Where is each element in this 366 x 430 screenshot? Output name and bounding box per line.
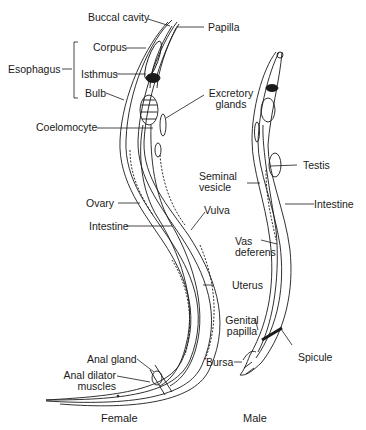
male-isthmus-ring [266,85,278,92]
label-esophagus: Esophagus [8,64,61,75]
label-anal-gland: Anal gland [87,354,137,365]
label-ovary: Ovary [86,198,114,209]
female-intestine [141,125,200,386]
label-papilla: Papilla [208,22,240,33]
label-anal-dilator-muscles: Anal dilator muscles [60,370,116,392]
bursa [243,351,256,374]
label-anal-dilator-line2: muscles [60,381,116,392]
label-buccal-cavity: Buccal cavity [88,12,149,23]
label-intestine-female: Intestine [89,221,129,232]
label-bulb: Bulb [85,88,106,99]
label-coelomocyte: Coelomocyte [36,122,97,133]
coelomocyte [155,143,161,157]
label-vulva: Vulva [204,205,230,216]
label-excretory-glands: Excretory glands [201,88,261,110]
label-seminal-vesicle: Seminal vesicle [199,171,237,193]
label-bursa: Bursa [206,357,233,368]
label-isthmus: Isthmus [81,69,118,80]
label-vas-line2: deferens [235,247,276,258]
label-intestine-male: Intestine [314,199,354,210]
caption-male: Male [243,412,267,424]
female-body-outline [46,20,220,406]
label-testis: Testis [303,160,330,171]
label-uterus: Uterus [232,280,263,291]
label-genital-line2: papilla [222,326,262,337]
female-isthmus-ring [146,74,160,83]
label-genital-papilla: Genital papilla [222,315,262,337]
label-corpus: Corpus [93,42,127,53]
label-seminal-line2: vesicle [199,182,237,193]
spicule [262,328,282,340]
caption-female: Female [101,412,138,424]
label-spicule: Spicule [298,352,332,363]
label-vas-deferens: Vas deferens [235,236,276,258]
testis [269,153,281,177]
excretory-gland [160,114,166,136]
label-excretory-line2: glands [201,99,261,110]
